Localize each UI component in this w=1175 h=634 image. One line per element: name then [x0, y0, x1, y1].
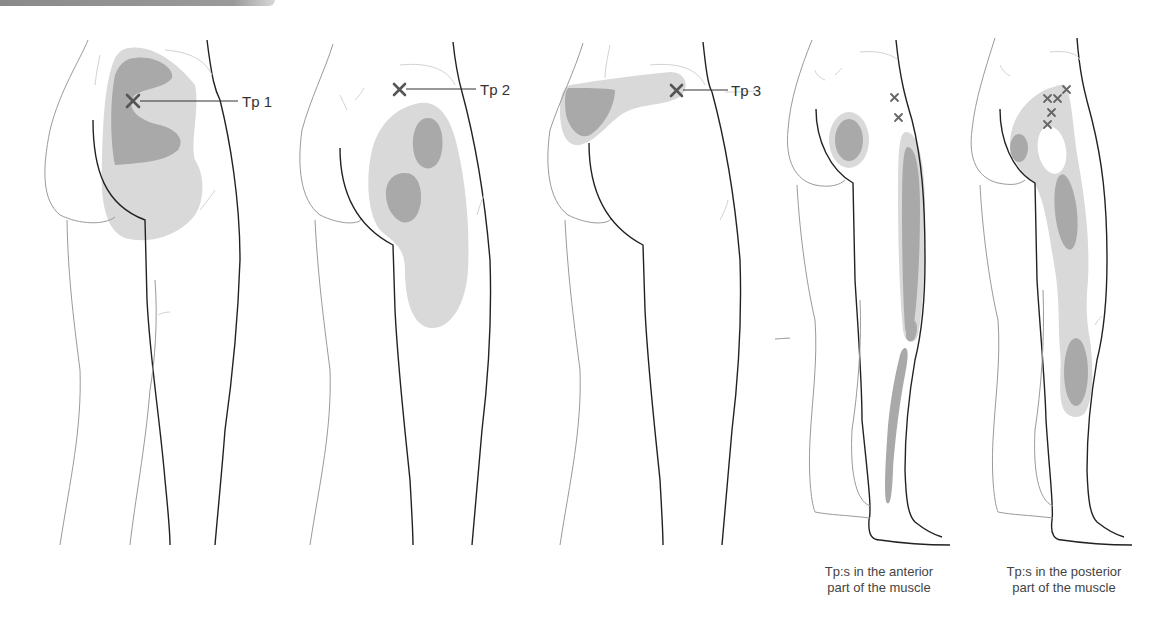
trigger-point-illustration — [0, 0, 1175, 634]
tp2-label: Tp 2 — [480, 82, 510, 97]
panel-tp2 — [300, 42, 491, 545]
posterior-caption-line1: Tp:s in the posterior — [984, 564, 1144, 580]
trigger-point-marker — [891, 94, 898, 101]
tp1-label: Tp 1 — [242, 94, 272, 109]
primary-pain-zone — [413, 118, 443, 168]
primary-pain-zone — [885, 348, 908, 503]
panel-tp3 — [548, 42, 755, 545]
panel-posterior — [971, 38, 1132, 545]
primary-pain-zone — [835, 119, 863, 161]
posterior-caption-line2: part of the muscle — [984, 580, 1144, 596]
tp3-label: Tp 3 — [731, 83, 761, 98]
primary-pain-zone — [1010, 134, 1028, 162]
trigger-point-marker — [394, 84, 405, 95]
panel-tp1 — [45, 40, 240, 545]
posterior-caption: Tp:s in the posterior part of the muscle — [984, 564, 1144, 596]
anterior-caption: Tp:s in the anterior part of the muscle — [799, 564, 959, 596]
anterior-caption-line1: Tp:s in the anterior — [799, 564, 959, 580]
primary-pain-zone — [1064, 338, 1088, 406]
trigger-point-marker — [895, 114, 902, 121]
panel-anterior — [775, 40, 950, 545]
anterior-caption-line2: part of the muscle — [799, 580, 959, 596]
